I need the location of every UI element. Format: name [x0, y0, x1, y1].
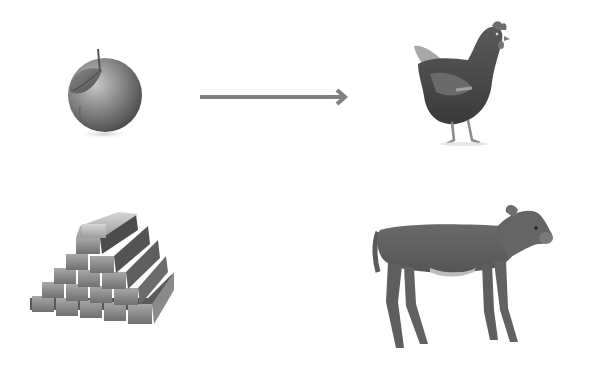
gold-bars-icon: [28, 210, 176, 334]
apple-icon: [40, 44, 150, 140]
gold-bars-image: [28, 210, 176, 334]
chicken-image: [408, 16, 510, 148]
calf-icon: [368, 202, 558, 357]
chicken-icon: [408, 16, 510, 148]
calf-image: [368, 202, 558, 357]
apple-image: [40, 44, 150, 140]
arrow-connector: [198, 86, 350, 108]
arrow-right-icon: [198, 86, 350, 108]
